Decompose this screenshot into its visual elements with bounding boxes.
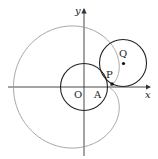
- label-a: A: [94, 90, 101, 100]
- y-axis-label: y: [75, 6, 81, 16]
- point-q: [122, 62, 125, 65]
- label-q: Q: [119, 49, 127, 59]
- x-axis-label: x: [145, 90, 151, 100]
- label-o: O: [74, 90, 82, 100]
- cardioid-diagram: y x O A P Q: [0, 0, 158, 159]
- diagram-canvas: [0, 0, 158, 159]
- label-p: P: [106, 70, 113, 80]
- point-p: [111, 83, 114, 86]
